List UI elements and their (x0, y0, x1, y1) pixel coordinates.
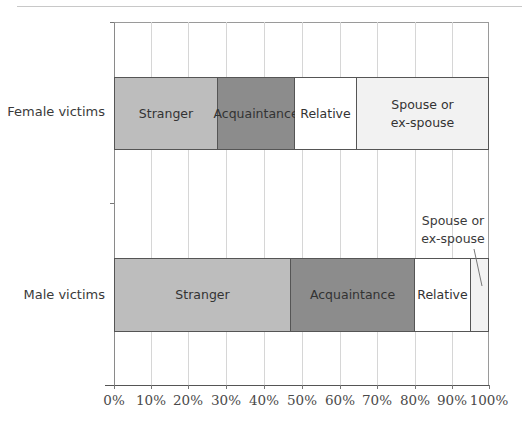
segment-label: Relative (417, 286, 467, 304)
x-tick (489, 385, 490, 389)
annotation-line2: ex-spouse (418, 230, 488, 248)
x-tick-label: 10% (136, 392, 166, 408)
segment-male-relative: Relative (415, 258, 471, 332)
x-tick (415, 385, 416, 389)
segment-label-line1: Spouse or (391, 96, 453, 114)
segment-label: Relative (300, 105, 350, 123)
x-tick-label: 70% (362, 392, 392, 408)
segment-female-acquaintance: Acquaintance (218, 77, 295, 150)
x-tick-label: 100% (470, 392, 509, 408)
segment-male-stranger: Stranger (114, 258, 291, 332)
x-tick (340, 385, 341, 389)
x-tick-label: 20% (173, 392, 203, 408)
segment-label: Acquaintance (310, 286, 395, 304)
segment-male-acquaintance: Acquaintance (291, 258, 415, 332)
segment-female-relative: Relative (295, 77, 357, 150)
segment-male-spouse (471, 258, 489, 332)
x-tick-label: 30% (211, 392, 241, 408)
x-tick-label: 40% (249, 392, 279, 408)
x-tick (264, 385, 265, 389)
segment-label: Stranger (139, 105, 193, 123)
segment-female-stranger: Stranger (114, 77, 218, 150)
x-tick (188, 385, 189, 389)
category-label-female: Female victims (0, 104, 105, 119)
top-divider (17, 6, 522, 7)
x-tick (151, 385, 152, 389)
segment-label-line2: ex-spouse (391, 114, 455, 132)
segment-label: Stranger (175, 286, 229, 304)
x-tick-label: 60% (325, 392, 355, 408)
x-tick (226, 385, 227, 389)
bar-female-victims: Stranger Acquaintance Relative Spouse or… (114, 77, 489, 150)
x-tick-label: 0% (103, 392, 124, 408)
x-tick-label: 80% (400, 392, 430, 408)
segment-female-spouse: Spouse or ex-spouse (357, 77, 489, 150)
annotation-male-spouse: Spouse or ex-spouse (418, 212, 488, 248)
x-tick-label: 90% (437, 392, 467, 408)
category-label-male: Male victims (0, 287, 105, 302)
x-tick (114, 385, 115, 389)
x-tick-label: 50% (287, 392, 317, 408)
x-tick (377, 385, 378, 389)
annotation-line1: Spouse or (418, 212, 488, 230)
x-tick (452, 385, 453, 389)
y-tick (110, 22, 114, 23)
segment-label: Acquaintance (213, 105, 298, 123)
y-tick (110, 203, 114, 204)
x-tick (302, 385, 303, 389)
x-axis (105, 385, 490, 386)
bar-male-victims: Stranger Acquaintance Relative (114, 258, 489, 332)
